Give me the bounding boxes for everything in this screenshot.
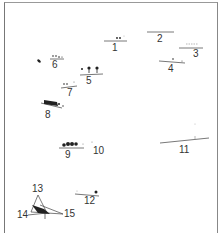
specimen-6: [37, 55, 64, 63]
label-4: 4: [168, 64, 174, 74]
label-11: 11: [179, 145, 189, 155]
label-9: 9: [65, 150, 71, 160]
specimen-figure: [0, 0, 222, 233]
label-8: 8: [45, 110, 51, 120]
specimen-11: [160, 124, 209, 144]
specimen-13-15: [28, 195, 63, 219]
specimen-5: [80, 66, 103, 75]
label-3: 3: [193, 49, 199, 59]
label-15: 15: [64, 209, 75, 219]
specimen-9: [59, 142, 84, 148]
label-7: 7: [67, 88, 73, 98]
specimen-10: [91, 141, 92, 142]
label-5: 5: [86, 76, 92, 86]
label-6: 6: [52, 60, 58, 70]
label-13: 13: [32, 184, 43, 194]
specimen-3: [179, 44, 203, 48]
label-2: 2: [157, 34, 163, 44]
label-10: 10: [93, 146, 104, 156]
label-1: 1: [112, 43, 118, 53]
specimen-8: [41, 100, 64, 108]
specimen-1: [104, 36, 127, 42]
label-14: 14: [17, 210, 28, 220]
label-12: 12: [84, 196, 95, 206]
